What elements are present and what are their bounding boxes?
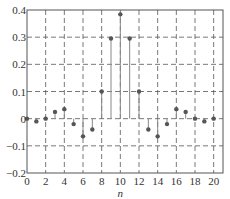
x-tick-label: 12 xyxy=(134,175,145,187)
x-tick-label: 2 xyxy=(43,175,49,187)
y-tick-label: 0 xyxy=(21,113,27,125)
stem-marker xyxy=(62,107,66,111)
grid-lines xyxy=(27,10,223,173)
stem-marker xyxy=(146,127,150,131)
y-tick-label: −0.1 xyxy=(6,140,26,152)
stem-marker xyxy=(174,107,178,111)
x-tick-label: 6 xyxy=(80,175,86,187)
y-tick-label: −0.2 xyxy=(6,167,26,179)
x-tick-label: 16 xyxy=(171,175,183,187)
y-tick-label: 0.1 xyxy=(12,86,26,98)
stem-marker xyxy=(118,12,122,16)
stem-marker xyxy=(137,89,141,93)
x-axis-label: n xyxy=(118,187,124,199)
x-tick-label: 18 xyxy=(190,175,202,187)
stem-marker xyxy=(183,110,187,114)
stem-marker xyxy=(127,36,131,40)
y-tick-label: 0.2 xyxy=(12,58,26,70)
stem-marker xyxy=(155,134,159,138)
x-tick-label: 4 xyxy=(62,175,68,187)
x-tick-label: 20 xyxy=(208,175,220,187)
x-axis-ticks: 02468101214161820 xyxy=(24,175,219,187)
stem-marker xyxy=(202,119,206,123)
x-tick-label: 10 xyxy=(115,175,127,187)
stem-marker xyxy=(34,119,38,123)
x-tick-label: 8 xyxy=(99,175,105,187)
stem-marker xyxy=(43,116,47,120)
y-tick-label: 0.4 xyxy=(12,4,26,16)
stem-marker xyxy=(193,116,197,120)
stem-plot: 02468101214161820 −0.2−0.100.10.20.30.4 … xyxy=(0,0,230,199)
stem-marker xyxy=(81,134,85,138)
stem-marker xyxy=(99,89,103,93)
y-tick-label: 0.3 xyxy=(12,31,26,43)
stem-marker xyxy=(165,122,169,126)
stem-marker xyxy=(90,127,94,131)
data-stems xyxy=(25,12,216,138)
x-tick-label: 14 xyxy=(152,175,164,187)
stem-marker xyxy=(109,36,113,40)
y-axis-ticks: −0.2−0.100.10.20.30.4 xyxy=(6,4,26,179)
stem-marker xyxy=(53,110,57,114)
stem-marker xyxy=(71,122,75,126)
stem-marker xyxy=(211,116,215,120)
